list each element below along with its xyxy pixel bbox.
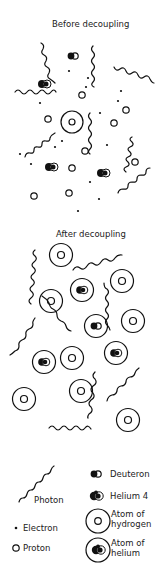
legend-photon-label: Photon bbox=[34, 495, 64, 505]
proton-icon bbox=[82, 148, 88, 154]
electron-icon bbox=[77, 210, 79, 212]
photon-icon bbox=[124, 137, 133, 172]
proton-icon bbox=[66, 190, 72, 196]
legend-hydrogen-atom-icon bbox=[86, 509, 110, 533]
legend-deuteron-label: Deuteron bbox=[110, 469, 150, 479]
electron-icon bbox=[89, 181, 91, 183]
deuteron-icon bbox=[68, 53, 75, 60]
helium-atom-icon bbox=[110, 349, 122, 357]
electron-icon bbox=[54, 146, 56, 148]
photon-icon bbox=[114, 67, 154, 83]
photon-icon bbox=[89, 113, 92, 154]
electron-icon bbox=[87, 77, 89, 79]
electron-icon bbox=[85, 86, 87, 88]
decoupling-diagram bbox=[0, 0, 163, 564]
hydrogen-atom-icon bbox=[40, 290, 63, 313]
photon-icon bbox=[15, 90, 56, 94]
legend-hydrogen-label-2: hydrogen bbox=[111, 519, 151, 529]
electron-icon bbox=[30, 163, 32, 165]
electron-icon bbox=[39, 102, 41, 104]
helium4-icon bbox=[38, 80, 51, 88]
deuteron-icon bbox=[91, 323, 98, 330]
legend-electron-label: Electron bbox=[23, 523, 58, 533]
proton-icon bbox=[79, 92, 85, 98]
photon-icon bbox=[29, 250, 36, 304]
electron-icon bbox=[98, 198, 100, 200]
proton-icon bbox=[69, 165, 75, 171]
proton-icon bbox=[111, 120, 117, 126]
legend-helium-atom-icon bbox=[92, 545, 105, 555]
helium4-icon bbox=[97, 169, 110, 177]
photon-icon bbox=[92, 46, 95, 87]
helium4-icon bbox=[45, 163, 58, 171]
hydrogen-atom-icon bbox=[111, 270, 134, 293]
electron-icon bbox=[120, 90, 122, 92]
photon-icon bbox=[49, 426, 91, 430]
photon-icon bbox=[73, 255, 122, 270]
electron-icon bbox=[117, 100, 119, 102]
legend-hydrogen-label-1: Atom of bbox=[111, 509, 144, 519]
legend-helium-atom-label-2: helium bbox=[111, 548, 140, 558]
helium-atom-icon bbox=[38, 358, 50, 366]
legend-electron-icon bbox=[15, 527, 18, 530]
hydrogen-atom-icon bbox=[61, 347, 84, 370]
legend-helium4-label: Helium 4 bbox=[110, 491, 148, 501]
legend-helium-atom-label-1: Atom of bbox=[111, 538, 144, 548]
legend-deuteron-icon bbox=[91, 471, 98, 478]
proton-icon bbox=[132, 159, 138, 165]
photon-icon bbox=[41, 43, 55, 83]
hydrogen-atom-icon bbox=[117, 409, 140, 432]
helium-atom-icon bbox=[76, 286, 88, 294]
hydrogen-atom-icon bbox=[50, 244, 73, 267]
electron-icon bbox=[68, 70, 70, 72]
hydrogen-atom-icon bbox=[122, 310, 145, 333]
hydrogen-atom-icon bbox=[13, 388, 36, 411]
proton-icon bbox=[123, 107, 129, 113]
photon-icon bbox=[10, 318, 35, 355]
hydrogen-atom-icon bbox=[61, 111, 83, 133]
legend-proton-label: Proton bbox=[23, 543, 50, 553]
proton-icon bbox=[45, 116, 51, 122]
photon-icon bbox=[118, 168, 150, 193]
photon-icon bbox=[42, 296, 71, 331]
electron-icon bbox=[99, 112, 101, 114]
photon-icon bbox=[25, 133, 55, 157]
electron-icon bbox=[106, 144, 108, 146]
proton-icon bbox=[31, 193, 37, 199]
electron-icon bbox=[19, 153, 21, 155]
hydrogen-atom-icon bbox=[70, 380, 93, 403]
electron-icon bbox=[61, 140, 63, 142]
photon-icon bbox=[107, 368, 139, 401]
legend-proton-icon bbox=[13, 545, 19, 551]
legend-helium4-icon bbox=[90, 491, 103, 501]
